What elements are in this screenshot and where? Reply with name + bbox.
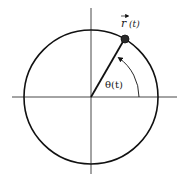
vector-label: r (t) xyxy=(121,16,140,30)
diagram-canvas: r (t) θ(t) xyxy=(0,0,186,183)
angle-label: θ(t) xyxy=(105,79,123,90)
moving-point xyxy=(121,35,129,43)
vector-symbol: r xyxy=(121,17,127,30)
vector-argument: (t) xyxy=(129,19,140,29)
angle-arc xyxy=(119,58,139,97)
